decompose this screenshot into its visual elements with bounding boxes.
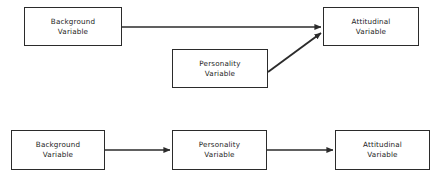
node-label-line2: Variable (356, 27, 386, 37)
node-background-variable-bottom: Background Variable (11, 130, 105, 170)
node-label-line1: Personality (199, 59, 240, 69)
node-personality-variable-top: Personality Variable (172, 49, 268, 88)
node-label-line1: Background (36, 140, 80, 150)
node-label-line1: Attitudinal (352, 17, 391, 27)
node-label-line1: Attitudinal (363, 140, 402, 150)
node-attitudinal-variable-top: Attitudinal Variable (323, 7, 419, 46)
node-label-line1: Personality (199, 140, 240, 150)
path-diagram-figure: Background Variable Personality Variable… (0, 0, 438, 181)
node-attitudinal-variable-bottom: Attitudinal Variable (335, 130, 430, 170)
node-label-line2: Variable (205, 69, 235, 79)
node-label-line1: Background (51, 17, 95, 27)
node-label-line2: Variable (58, 27, 88, 37)
node-background-variable-top: Background Variable (24, 7, 122, 46)
arrow-top-personality-to-attitudinal (268, 33, 321, 72)
node-personality-variable-bottom: Personality Variable (172, 130, 267, 170)
node-label-line2: Variable (367, 150, 397, 160)
node-label-line2: Variable (43, 150, 73, 160)
node-label-line2: Variable (204, 150, 234, 160)
